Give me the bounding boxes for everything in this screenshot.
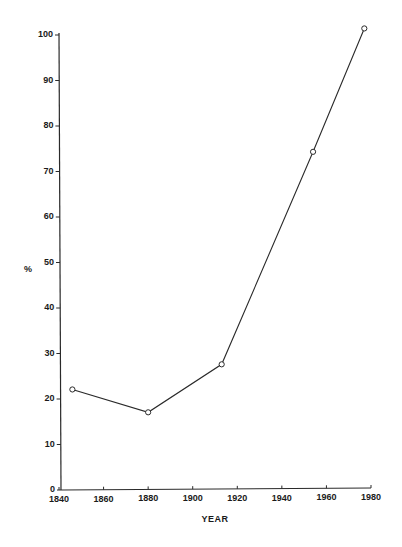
x-tick-label: 1920: [227, 493, 247, 503]
data-point-marker: [146, 410, 151, 415]
series-line: [72, 28, 364, 412]
x-axis-title: YEAR: [201, 514, 228, 524]
y-tick-label: 60: [44, 211, 54, 221]
x-axis: 18401860188019001920194019601980: [49, 485, 381, 504]
y-tick-label: 100: [38, 29, 53, 39]
x-tick-label: 1960: [316, 492, 336, 502]
data-point-marker: [362, 26, 367, 31]
y-tick-label: 70: [44, 166, 54, 176]
y-tick-label: 20: [45, 393, 55, 403]
y-tick-label: 10: [45, 439, 55, 449]
y-tick-label: 80: [43, 120, 53, 130]
x-tick-label: 1880: [138, 493, 158, 503]
y-tick-label: 50: [44, 257, 54, 267]
line-chart: 0102030405060708090100 18401860188019001…: [0, 0, 402, 547]
data-point-marker: [219, 362, 224, 367]
x-tick-label: 1940: [272, 493, 292, 503]
y-tick-label: 30: [44, 348, 54, 358]
y-axis: 0102030405060708090100: [38, 29, 61, 494]
data-point-marker: [310, 149, 315, 154]
x-tick-label: 1980: [361, 492, 381, 502]
data-series: [70, 26, 367, 415]
y-tick-label: 90: [43, 75, 53, 85]
data-point-marker: [70, 387, 75, 392]
x-tick-label: 1900: [183, 493, 203, 503]
x-tick-label: 1860: [94, 494, 114, 504]
x-tick-label: 1840: [49, 494, 69, 504]
y-tick-label: 40: [44, 302, 54, 312]
y-axis-title: %: [24, 264, 33, 274]
y-tick-label: 0: [50, 484, 55, 494]
